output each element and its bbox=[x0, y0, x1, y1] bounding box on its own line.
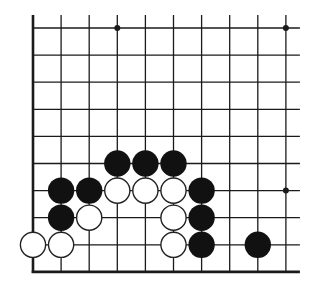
star-point-icon bbox=[283, 25, 289, 31]
star-point-icon bbox=[114, 25, 120, 31]
black-stone-icon bbox=[104, 150, 130, 176]
black-stone-icon bbox=[245, 232, 271, 258]
black-stone-icon bbox=[188, 232, 214, 258]
white-stone-icon bbox=[49, 232, 74, 257]
white-stone-icon bbox=[161, 232, 186, 257]
white-stone-icon bbox=[20, 232, 45, 257]
black-stone-icon bbox=[76, 177, 102, 203]
black-stone-icon bbox=[160, 150, 186, 176]
star-point-icon bbox=[283, 188, 289, 194]
white-stone-icon bbox=[105, 178, 130, 203]
white-stone-icon bbox=[133, 178, 158, 203]
white-stone-icon bbox=[161, 205, 186, 230]
white-stone-icon bbox=[161, 178, 186, 203]
black-stone-icon bbox=[188, 205, 214, 231]
white-stone-icon bbox=[77, 205, 102, 230]
go-board bbox=[0, 0, 321, 291]
black-stone-icon bbox=[48, 177, 74, 203]
black-stone-icon bbox=[132, 150, 158, 176]
black-stone-icon bbox=[188, 177, 214, 203]
black-stone-icon bbox=[48, 205, 74, 231]
